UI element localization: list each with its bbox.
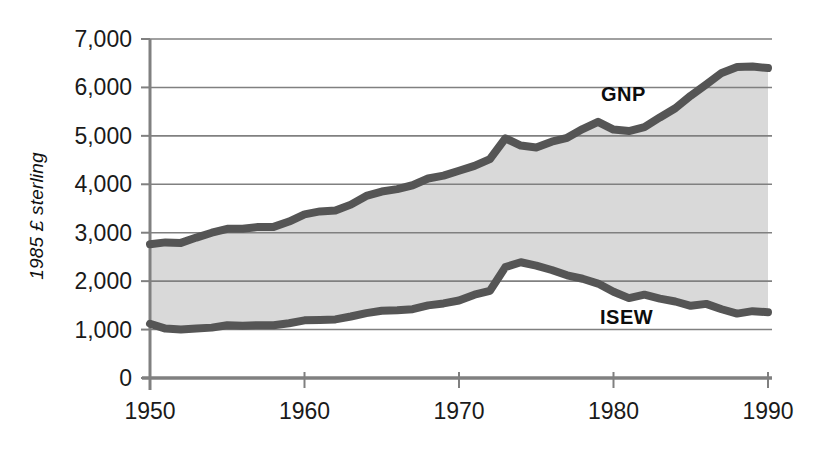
chart-container: 1985 £ sterling 01,0002,0003,0004,0005,0…: [0, 0, 814, 464]
series-label-isew: ISEW: [600, 306, 653, 329]
plot-area: [0, 0, 814, 464]
series-label-gnp: GNP: [601, 83, 646, 106]
